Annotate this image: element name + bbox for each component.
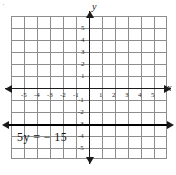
x-axis-label: x [167, 83, 171, 93]
x-tick-label--5: -5 [21, 92, 27, 99]
y-axis [89, 11, 90, 164]
y-tick-label--4: -4 [78, 133, 84, 140]
x-tick-label-1: 1 [99, 92, 103, 99]
coordinate-plane-figure: · y [0, 0, 176, 175]
y-axis-arrow-down [86, 157, 94, 164]
plotted-line-y-equals-neg3 [6, 124, 170, 126]
y-tick-label-3: 3 [81, 49, 85, 56]
y-tick-label--3: -3 [78, 121, 84, 128]
equation-label: 5y = − 15 [17, 131, 67, 143]
y-axis-label: y [92, 2, 96, 12]
plotted-line-arrow-right [167, 121, 174, 129]
corner-mark: · [2, 1, 5, 9]
plotted-line-arrow-left [2, 121, 9, 129]
y-tick-label--5: -5 [78, 145, 84, 152]
x-tick-label-3: 3 [125, 92, 129, 99]
y-tick-label-5: 5 [81, 25, 85, 32]
y-tick-label--1: -1 [78, 97, 84, 104]
x-axis [5, 88, 171, 89]
x-tick-label--3: -3 [47, 92, 53, 99]
y-tick-label-2: 2 [81, 61, 85, 68]
y-tick-label-1: 1 [81, 73, 85, 80]
x-tick-label--4: -4 [34, 92, 40, 99]
x-tick-label--2: -2 [60, 92, 66, 99]
y-axis-arrow-up [86, 11, 94, 18]
x-tick-label-5: 5 [151, 92, 155, 99]
x-axis-arrow-left [5, 85, 12, 93]
y-tick-label--2: -2 [78, 109, 84, 116]
y-tick-label-4: 4 [81, 37, 85, 44]
x-tick-label-2: 2 [112, 92, 116, 99]
x-tick-label-4: 4 [138, 92, 142, 99]
